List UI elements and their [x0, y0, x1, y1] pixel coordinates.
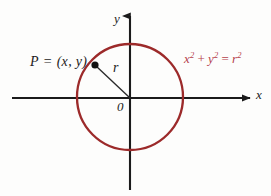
circle-equation-figure: P = (x, y) r 0 x y x2+y2=r2	[0, 0, 271, 196]
figure-canvas	[0, 0, 271, 196]
radius-label: r	[113, 61, 118, 75]
point-p-coords: (x, y)	[57, 54, 88, 69]
point-p-marker	[91, 61, 98, 68]
point-p-label: P = (x, y)	[30, 55, 87, 69]
equation-plus: +	[194, 51, 208, 66]
equation-equals: =	[218, 51, 232, 66]
equation-r-exponent: 2	[237, 50, 241, 60]
point-p-equals: =	[39, 54, 57, 69]
circle-equation-label: x2+y2=r2	[184, 52, 242, 65]
origin-label: 0	[117, 100, 124, 113]
x-axis-label: x	[256, 88, 262, 101]
point-p-name: P	[30, 54, 39, 69]
y-axis-label: y	[114, 12, 120, 25]
